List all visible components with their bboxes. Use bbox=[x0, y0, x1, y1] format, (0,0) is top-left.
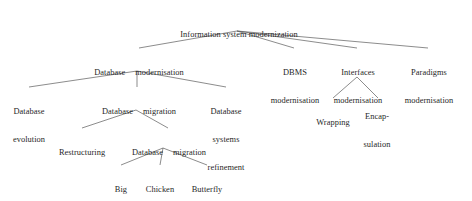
node-big-bang-line1: Big bbox=[105, 185, 137, 194]
node-wrapping-label: Wrapping bbox=[310, 118, 356, 127]
node-restructuring-label: Restructuring bbox=[49, 148, 115, 157]
node-wrapping: Wrapping bbox=[310, 100, 356, 146]
node-database-migration-level3: Databasemigration bbox=[84, 89, 194, 135]
node-big-bang: Big bang bbox=[105, 167, 137, 201]
node-database-migration-level3-label: Databasemigration bbox=[84, 107, 194, 116]
node-butterfly-label: Butterfly bbox=[185, 185, 229, 194]
node-paradigms-modernisation-line1: Paradigms bbox=[394, 68, 464, 77]
node-database-migration-level4-label: Databasemigration bbox=[117, 148, 221, 157]
node-chicken-little: Chicken little bbox=[137, 167, 183, 201]
tree-diagram: Information system modernization Databas… bbox=[0, 0, 472, 201]
node-paradigms-modernisation-line2: modernisation bbox=[394, 96, 464, 105]
node-database-evolution-line1: Database bbox=[1, 107, 57, 116]
node-database-systems-refinement-line1: Database bbox=[198, 107, 254, 116]
node-root-label: Information system modernization bbox=[176, 30, 302, 39]
node-encapsulation-line1: Encap- bbox=[356, 112, 398, 121]
node-encapsulation-line2: sulation bbox=[356, 140, 398, 149]
node-database-modernisation-label: Databasemodernisation bbox=[73, 68, 205, 77]
node-butterfly: Butterfly bbox=[185, 167, 229, 201]
node-paradigms-modernisation: Paradigms modernisation bbox=[394, 50, 464, 124]
node-interfaces-modernisation-line1: Interfaces bbox=[325, 68, 391, 77]
node-chicken-little-line1: Chicken bbox=[137, 185, 183, 194]
node-encapsulation: Encap- sulation bbox=[356, 94, 398, 168]
node-dbms-modernisation-line1: DBMS bbox=[264, 68, 326, 77]
